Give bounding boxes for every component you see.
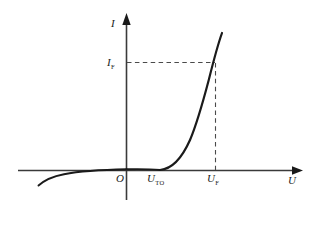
current-axis-label: I <box>111 18 115 29</box>
voltage-turnon-tick-label: UTO <box>147 173 164 184</box>
diode-curve-low-bias-region <box>127 169 161 170</box>
voltage-forward-symbol: U <box>207 172 215 184</box>
voltage-forward-subscript: F <box>215 179 219 186</box>
diode-curve-forward-conduction <box>160 33 222 170</box>
diode-curve-reverse-region <box>39 169 127 185</box>
origin-label: O <box>116 173 124 184</box>
current-forward-tick-label: IF <box>107 57 115 68</box>
voltage-forward-tick-label: UF <box>207 173 219 184</box>
voltage-turnon-symbol: U <box>147 172 155 184</box>
current-forward-subscript: F <box>111 63 115 70</box>
current-axis-arrowhead <box>122 13 130 25</box>
voltage-turnon-subscript: TO <box>155 179 164 186</box>
voltage-axis-label: U <box>288 175 296 186</box>
plot-canvas <box>0 0 309 235</box>
diode-iv-characteristic-figure: I U O IF UTO UF <box>0 0 309 235</box>
